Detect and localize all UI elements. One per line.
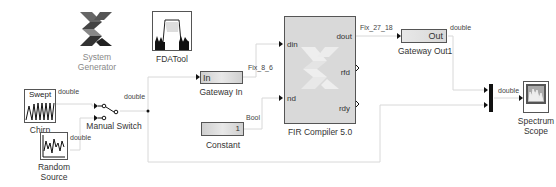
manual-switch-label: Manual Switch bbox=[84, 121, 144, 131]
fir-port-nd: nd bbox=[287, 94, 296, 103]
fir-port-dout: dout bbox=[336, 32, 352, 41]
gateway-out-label: Gateway Out1 bbox=[398, 46, 452, 56]
spectrum-scope-block[interactable] bbox=[523, 81, 549, 113]
chirp-signal-type: double bbox=[58, 88, 79, 95]
switch-signal-type: double bbox=[124, 93, 145, 100]
spectrum-scope-icon bbox=[524, 82, 548, 112]
mux-block[interactable] bbox=[489, 84, 493, 112]
fir-port-rfd: rfd bbox=[341, 68, 350, 77]
filter-response-icon bbox=[153, 12, 191, 50]
gateway-in-block[interactable]: In bbox=[200, 71, 243, 84]
fir-dout-signal-type: Fix_27_18 bbox=[360, 24, 393, 31]
fir-port-din: din bbox=[287, 40, 298, 49]
system-generator-block[interactable] bbox=[78, 12, 114, 46]
system-generator-label: System Generator bbox=[72, 52, 122, 72]
gateway-out-block[interactable]: Out bbox=[401, 29, 447, 43]
random-signal-icon bbox=[41, 133, 67, 159]
chirp-wave-icon bbox=[25, 100, 55, 122]
xilinx-logo-icon bbox=[299, 47, 341, 89]
mux-signal-type: double bbox=[498, 87, 519, 94]
constant-value: 1 bbox=[236, 124, 240, 133]
random-source-label: Random Source bbox=[34, 162, 74, 182]
gateway-out-signal-type: double bbox=[450, 24, 471, 31]
chirp-block[interactable]: Swept bbox=[24, 89, 56, 123]
constant-label: Constant bbox=[198, 140, 248, 150]
fir-output-port-markers bbox=[355, 64, 361, 112]
xilinx-logo-icon bbox=[78, 12, 114, 46]
fir-compiler-label: FIR Compiler 5.0 bbox=[284, 127, 356, 137]
manual-switch-block[interactable] bbox=[94, 100, 122, 122]
constant-signal-type: Bool bbox=[246, 114, 260, 121]
gateway-in-text: In bbox=[203, 73, 211, 83]
gateway-in-signal-type: Fix_8_6 bbox=[248, 64, 273, 71]
constant-block[interactable]: 1 bbox=[201, 122, 244, 136]
switch-icon bbox=[94, 100, 122, 122]
spectrum-scope-label: Spectrum Scope bbox=[511, 116, 556, 136]
gateway-out-text: Out bbox=[428, 31, 443, 41]
fdatool-label: FDATool bbox=[147, 54, 197, 64]
fir-compiler-block[interactable]: din nd dout rfd rdy bbox=[284, 16, 356, 124]
random-source-block[interactable] bbox=[40, 132, 68, 160]
random-signal-type: double bbox=[70, 134, 91, 141]
fdatool-block[interactable] bbox=[152, 11, 192, 51]
gateway-in-label: Gateway In bbox=[196, 87, 246, 97]
fir-port-rdy: rdy bbox=[339, 104, 350, 113]
chirp-title: Swept bbox=[25, 90, 55, 100]
